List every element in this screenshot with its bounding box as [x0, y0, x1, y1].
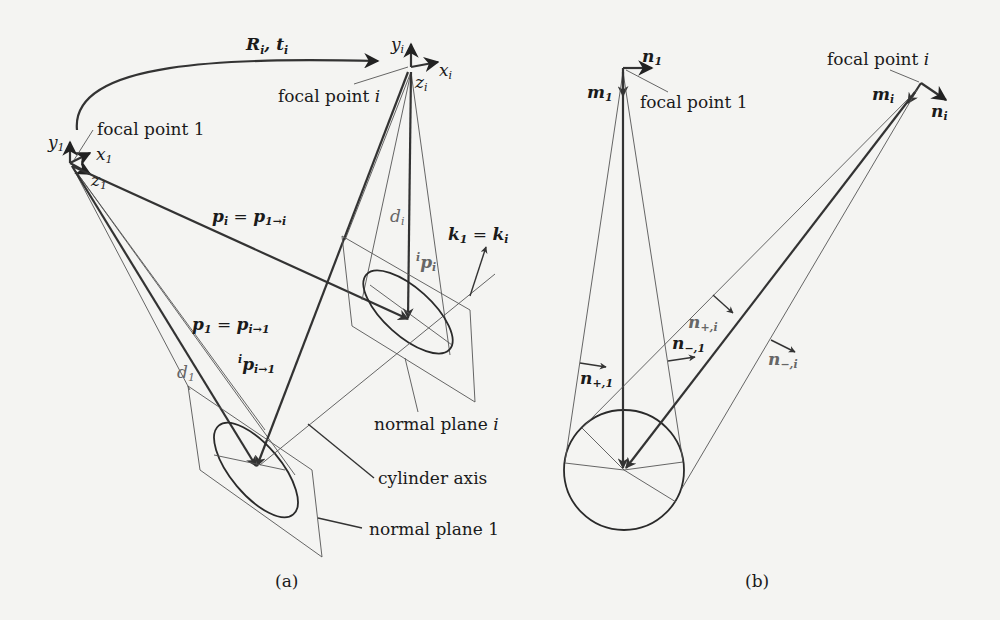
n-minus-i-label: n−,i	[768, 349, 798, 371]
yi-label: yi	[390, 34, 404, 56]
n-plus-1-label: n+,1	[580, 368, 613, 390]
caption-b: (b)	[745, 571, 769, 591]
cami-axis	[626, 92, 915, 468]
caption-a: (a)	[275, 571, 298, 591]
n-minus-1-label: n−,1	[672, 333, 705, 355]
ellipse-1	[200, 409, 313, 530]
mi-label: mi	[872, 84, 894, 106]
m1-label: m1	[587, 82, 613, 104]
cam1-tangent	[565, 72, 623, 462]
p-1-equation: p1 = pi→1	[192, 314, 270, 336]
ip-i-label: ipi	[416, 251, 436, 274]
k-arrow	[470, 247, 486, 296]
transform-label: Ri, ti	[245, 34, 288, 57]
y1-label: y1	[47, 132, 65, 154]
radius	[624, 462, 683, 470]
cam1-tangent	[623, 72, 683, 462]
ni-label: ni	[931, 101, 948, 123]
focal-point-1-label-b: focal point 1	[640, 92, 748, 112]
focal-point-i-label-b: focal point i	[827, 49, 929, 69]
radius	[624, 470, 676, 502]
cone-i-line	[411, 72, 450, 355]
figure-a: Ri, ti y1 x1 z1 focal point 1 yi xi zi f…	[47, 34, 508, 591]
cone-1-line	[72, 166, 190, 390]
x1-axis-arrow	[70, 153, 90, 163]
k-equation: k1 = ki	[448, 224, 508, 246]
n-minus-1-arrow	[668, 357, 695, 361]
normal-plane-i-label: normal plane i	[374, 414, 499, 434]
p-i-equation: pi = p1→i	[212, 206, 286, 228]
ni-arrow	[921, 83, 946, 100]
d-i-label: di	[390, 206, 404, 228]
zi-label: zi	[414, 72, 428, 94]
n-plus-1-arrow	[580, 363, 606, 367]
radius	[565, 463, 624, 470]
figure-canvas: Ri, ti y1 x1 z1 focal point 1 yi xi zi f…	[0, 0, 1000, 620]
focal-point-i-leader-b	[890, 70, 919, 82]
normal-plane-1-label: normal plane 1	[369, 519, 499, 539]
ellipse-i-chord	[370, 285, 452, 345]
normal-plane-1-leader	[318, 518, 362, 528]
d-1-label: d1	[177, 362, 195, 384]
cami-tangent	[582, 90, 917, 428]
focal-point-i-leader-a	[354, 67, 408, 84]
n-plus-i-arrow	[713, 295, 733, 313]
xi-label: xi	[439, 60, 452, 82]
cylinder-axis-leader	[308, 424, 374, 478]
focal-point-i-label-a: focal point i	[278, 86, 380, 106]
focal-point-1-leader-b	[626, 70, 668, 92]
p-i-ray	[72, 166, 408, 319]
radius	[582, 428, 624, 470]
focal-point-1-label-a: focal point 1	[97, 119, 205, 139]
x1-label: x1	[96, 144, 113, 166]
ip-i-to-1-label: ipi→1	[238, 353, 275, 376]
cylinder-axis-label: cylinder axis	[378, 468, 487, 488]
cami-tangent	[681, 90, 917, 490]
cone-i-line	[362, 72, 411, 300]
p-1-ray	[257, 72, 408, 466]
n1-label: n1	[642, 46, 662, 68]
n-plus-i-label: n+,i	[688, 312, 718, 334]
normal-plane-1	[188, 386, 322, 557]
xi-axis-arrow	[411, 62, 438, 67]
figure-b: n1 m1 focal point 1 focal point i mi ni …	[564, 46, 948, 591]
cylinder-axis-line	[260, 274, 495, 465]
